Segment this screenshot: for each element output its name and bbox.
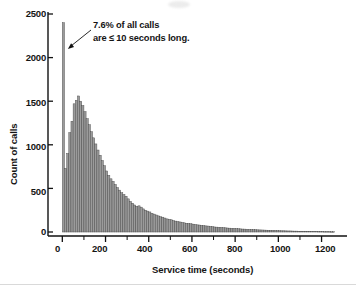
x-tick-label-600: 600 bbox=[182, 243, 197, 254]
histogram-bar bbox=[99, 155, 101, 232]
histogram-bar bbox=[75, 100, 77, 232]
histogram-bar bbox=[134, 205, 136, 232]
histogram-bar bbox=[97, 150, 99, 232]
y-axis-title: Count of calls bbox=[8, 124, 19, 185]
histogram-bar bbox=[322, 232, 324, 233]
histogram-bar bbox=[293, 231, 295, 232]
histogram-bar bbox=[281, 231, 283, 232]
histogram-bar bbox=[114, 184, 116, 232]
histogram-bar bbox=[257, 230, 259, 232]
histogram-bar bbox=[283, 231, 285, 232]
histogram-bar bbox=[319, 232, 321, 233]
histogram-bar bbox=[188, 223, 190, 232]
histogram-bar bbox=[261, 230, 263, 232]
histogram-bar bbox=[147, 211, 149, 232]
histogram-bar bbox=[205, 226, 207, 232]
histogram-bar bbox=[209, 226, 211, 232]
histogram-bar bbox=[123, 195, 125, 233]
x-tick-label-200: 200 bbox=[92, 243, 107, 254]
histogram-bar bbox=[142, 209, 144, 232]
histogram-bar bbox=[101, 161, 103, 233]
histogram-bar bbox=[324, 232, 326, 233]
histogram-bar bbox=[248, 229, 250, 232]
histogram-bars bbox=[62, 23, 334, 233]
y-tick-label-0: 0 bbox=[6, 226, 46, 237]
callout-arrow-shaft bbox=[70, 30, 91, 47]
histogram-bar bbox=[227, 228, 229, 232]
histogram-bar bbox=[285, 231, 287, 232]
histogram-figure: 2500 2000 1500 1000 500 0 0 200 400 600 … bbox=[0, 0, 356, 287]
histogram-bar bbox=[149, 212, 151, 232]
histogram-bar bbox=[289, 231, 291, 232]
histogram-bar bbox=[127, 199, 129, 232]
histogram-bar bbox=[330, 232, 332, 233]
histogram-bar bbox=[211, 227, 213, 232]
histogram-bar bbox=[88, 125, 90, 232]
histogram-bar bbox=[162, 217, 164, 232]
histogram-bar bbox=[304, 231, 306, 232]
histogram-bar bbox=[190, 224, 192, 232]
histogram-bar bbox=[67, 154, 69, 232]
histogram-bar bbox=[278, 231, 280, 232]
histogram-bar bbox=[268, 230, 270, 232]
histogram-bar bbox=[82, 106, 84, 232]
histogram-bar bbox=[287, 231, 289, 232]
histogram-bar bbox=[201, 225, 203, 232]
histogram-bar bbox=[272, 230, 274, 232]
histogram-bar bbox=[220, 227, 222, 232]
histogram-bar bbox=[196, 225, 198, 232]
histogram-bar bbox=[192, 224, 194, 232]
annotation-line-1: 7.6% of all calls bbox=[93, 19, 159, 31]
x-axis-title: Service time (seconds) bbox=[152, 264, 253, 275]
scan-artifact bbox=[168, 1, 190, 8]
histogram-bar bbox=[216, 227, 218, 232]
histogram-bar bbox=[218, 227, 220, 232]
y-tick-label-2500: 2500 bbox=[6, 8, 46, 19]
histogram-bar bbox=[93, 138, 95, 232]
histogram-bar bbox=[332, 232, 334, 233]
histogram-bar bbox=[244, 229, 246, 232]
histogram-bar bbox=[300, 231, 302, 232]
histogram-bar bbox=[274, 231, 276, 232]
histogram-bar bbox=[183, 223, 185, 232]
histogram-bar bbox=[311, 231, 313, 232]
histogram-bar bbox=[86, 119, 88, 232]
histogram-bar bbox=[175, 221, 177, 232]
histogram-bar bbox=[71, 121, 73, 232]
annotation-line-2: are ≤ 10 seconds long. bbox=[93, 32, 189, 44]
histogram-bar bbox=[214, 227, 216, 232]
histogram-bar bbox=[317, 232, 319, 233]
histogram-bar bbox=[110, 179, 112, 232]
histogram-bar bbox=[140, 207, 142, 232]
histogram-bar bbox=[296, 231, 298, 232]
histogram-bar bbox=[95, 144, 97, 232]
histogram-bar bbox=[326, 232, 328, 233]
histogram-bar bbox=[151, 213, 153, 232]
histogram-bar bbox=[246, 229, 248, 232]
histogram-bar bbox=[177, 222, 179, 232]
histogram-bar bbox=[121, 193, 123, 232]
histogram-bar bbox=[160, 217, 162, 232]
histogram-bar bbox=[106, 171, 108, 232]
y-tick-label-2000: 2000 bbox=[6, 52, 46, 63]
histogram-bar bbox=[181, 222, 183, 232]
y-tick-label-1500: 1500 bbox=[6, 97, 46, 108]
histogram-bar bbox=[302, 231, 304, 232]
histogram-bar bbox=[298, 231, 300, 232]
histogram-bar bbox=[185, 223, 187, 232]
histogram-bar bbox=[112, 181, 114, 232]
histogram-bar bbox=[118, 190, 120, 232]
histogram-bar bbox=[69, 133, 71, 232]
histogram-bar bbox=[164, 218, 166, 232]
histogram-bar bbox=[198, 225, 200, 232]
histogram-bar bbox=[157, 216, 159, 232]
histogram-bar bbox=[144, 210, 146, 232]
histogram-bar bbox=[108, 175, 110, 232]
histogram-bar bbox=[309, 231, 311, 232]
x-tick-label-1000: 1000 bbox=[270, 243, 290, 254]
histogram-bar bbox=[242, 229, 244, 232]
histogram-bar bbox=[237, 229, 239, 232]
histogram-bar bbox=[276, 231, 278, 232]
histogram-bar bbox=[90, 132, 92, 232]
histogram-bar bbox=[138, 206, 140, 232]
